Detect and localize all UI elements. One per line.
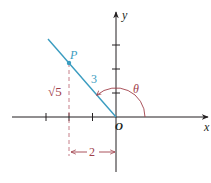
point-p-label: P bbox=[69, 48, 78, 62]
angle-theta-label: θ bbox=[133, 82, 139, 96]
origin-label: O bbox=[115, 120, 123, 132]
horizontal-leg-label: 2 bbox=[89, 145, 95, 159]
trig-angle-diagram: y x O P 3 θ √5 2 bbox=[0, 0, 211, 183]
x-axis-label: x bbox=[203, 120, 210, 134]
vertical-leg-label: √5 bbox=[48, 84, 62, 99]
terminal-side-line bbox=[48, 39, 116, 117]
hypotenuse-label: 3 bbox=[91, 72, 97, 86]
y-axis-label: y bbox=[121, 8, 128, 22]
